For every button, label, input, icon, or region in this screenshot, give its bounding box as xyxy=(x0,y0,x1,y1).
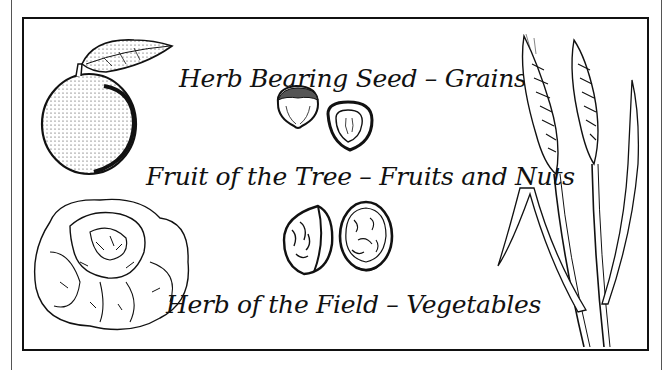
caption-vegetables: Herb of the Field – Vegetables xyxy=(166,290,541,319)
apple-icon xyxy=(34,36,179,176)
outer-right-rule xyxy=(661,0,662,370)
walnut-icon xyxy=(278,200,396,278)
hazelnut-icon xyxy=(272,84,380,154)
wheat-icon xyxy=(490,34,645,347)
outer-left-rule xyxy=(11,0,12,370)
